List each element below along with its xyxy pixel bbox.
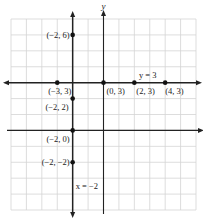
vertical-line-arrow-up <box>70 11 75 17</box>
point-label: (2, 3) <box>136 86 155 96</box>
labels: y = 3x = −2(−2, 6)(−3, 3)(0, 3)(2, 3)(4,… <box>42 30 184 191</box>
vertical-line-label: x = −2 <box>76 181 98 191</box>
data-point <box>70 160 75 165</box>
point-label: (−3, 3) <box>48 86 71 96</box>
point-label: (−2, 2) <box>45 102 68 112</box>
point-label: (−2, −2) <box>42 157 70 167</box>
data-point <box>132 80 137 85</box>
point-label: (−2, 6) <box>46 30 69 40</box>
data-point <box>70 128 75 133</box>
data-point <box>70 33 75 38</box>
x-axis-arrow <box>198 128 203 133</box>
point-label: (−2, 0) <box>46 134 69 144</box>
data-point <box>101 80 106 85</box>
data-point <box>70 96 75 101</box>
axes: xy <box>7 1 203 214</box>
horizontal-line-label: y = 3 <box>139 70 157 80</box>
point-label: (0, 3) <box>107 86 126 96</box>
horizontal-line-arrow-right <box>196 80 202 85</box>
vertical-line-arrow-down <box>70 212 75 218</box>
point-label: (4, 3) <box>165 86 184 96</box>
coordinate-plane: xy y = 3x = −2(−2, 6)(−3, 3)(0, 3)(2, 3)… <box>0 0 203 218</box>
horizontal-line-arrow-left <box>3 80 9 85</box>
data-point <box>163 80 168 85</box>
data-point <box>55 80 60 85</box>
y-axis-label: y <box>101 1 106 11</box>
